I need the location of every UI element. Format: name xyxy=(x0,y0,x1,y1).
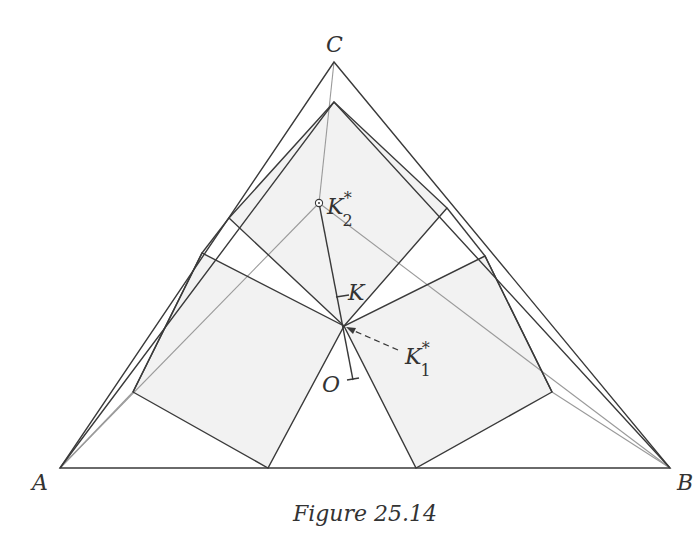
label-C: C xyxy=(326,32,343,57)
label-O: O xyxy=(322,372,340,397)
k2-marker-icon xyxy=(315,199,322,206)
label-B: B xyxy=(676,470,693,495)
label-K: K xyxy=(347,280,366,305)
label-A: A xyxy=(30,470,48,495)
triangle-diagram: C A B K2* K K1* O Figure 25.14 xyxy=(0,0,698,554)
shaded-squares xyxy=(133,102,552,468)
figure-caption: Figure 25.14 xyxy=(292,501,437,526)
